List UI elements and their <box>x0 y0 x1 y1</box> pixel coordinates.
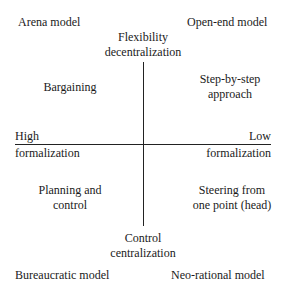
corner-label-bureaucratic-model: Bureaucratic model <box>15 268 109 283</box>
axis-label-high: High <box>15 129 39 144</box>
axis-label-low-formalization: formalization <box>206 146 271 161</box>
vertical-axis-line <box>143 62 144 226</box>
quadrant-top-left-bargaining: Bargaining <box>20 80 120 95</box>
axis-label-control-centralization: Control centralization <box>83 231 203 261</box>
axis-label-flexibility-decentralization: Flexibility decentralization <box>83 30 203 60</box>
quadrant-bottom-right-steering-from-one-point: Steering from one point (head) <box>172 183 287 213</box>
quadrant-bottom-left-planning-and-control: Planning and control <box>20 183 120 213</box>
axis-label-low: Low <box>249 129 271 144</box>
axis-label-high-formalization: formalization <box>15 146 80 161</box>
quadrant-top-right-step-by-step: Step-by-step approach <box>180 72 280 102</box>
corner-label-open-end-model: Open-end model <box>187 15 267 30</box>
corner-label-neo-rational-model: Neo-rational model <box>171 268 265 283</box>
corner-label-arena-model: Arena model <box>18 15 80 30</box>
